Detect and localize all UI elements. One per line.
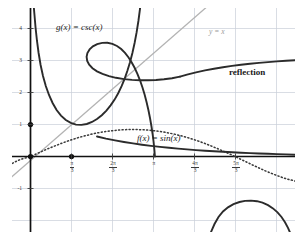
point-origin xyxy=(28,154,33,159)
curve-reflection-lower-arm xyxy=(97,137,295,155)
graph-canvas xyxy=(12,8,295,232)
x-tick-0-den: 3 xyxy=(70,167,75,174)
x-tick-label-5pi-over-3: 5π 3 xyxy=(226,161,246,173)
x-tick-label-4pi-over-3: 4π 3 xyxy=(185,161,205,173)
y-tick-label-4: 4 xyxy=(10,25,22,31)
x-tick-3-den: 3 xyxy=(191,167,199,174)
x-tick-1-num: 2π xyxy=(109,161,117,167)
x-tick-4-num: 5π xyxy=(232,161,240,167)
annotation-reflection: reflection xyxy=(229,67,265,77)
annotation-f-sin: f(x) = sin(x) xyxy=(137,133,181,143)
x-tick-3-num: 4π xyxy=(191,161,199,167)
y-tick-label-3: 3 xyxy=(10,57,22,63)
y-tick-label-2: 2 xyxy=(10,89,22,95)
x-tick-label-2pi-over-3: 2π 3 xyxy=(103,161,123,173)
curve-csc-lower-branch xyxy=(208,201,293,232)
x-tick-1-den: 3 xyxy=(109,167,117,174)
plot-area: 4 3 2 1 -1 π 3 2π 3 π 4π 3 xyxy=(12,8,295,232)
y-tick-label-neg1: -1 xyxy=(8,185,22,191)
annotation-g-csc: g(x) = csc(x) xyxy=(56,22,103,32)
grid-lines xyxy=(12,8,295,232)
x-tick-2-num: π xyxy=(152,161,157,167)
x-tick-label-pi: π xyxy=(144,161,164,167)
y-tick-label-1: 1 xyxy=(10,121,22,127)
annotation-y-equals-x: y = x xyxy=(209,27,224,36)
math-graph-figure: 4 3 2 1 -1 π 3 2π 3 π 4π 3 xyxy=(0,0,303,239)
x-tick-4-den: 3 xyxy=(232,167,240,174)
identity-line-y-equals-x xyxy=(12,8,217,185)
x-tick-label-pi-over-3: π 3 xyxy=(62,161,82,173)
